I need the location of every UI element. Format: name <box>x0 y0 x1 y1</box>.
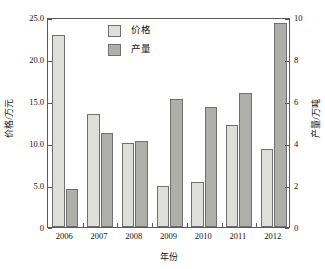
x-tick-mark <box>117 223 118 227</box>
bar-price <box>122 143 135 227</box>
y-tick-mark-right <box>285 187 289 188</box>
y-tick-mark-left <box>48 228 52 229</box>
bar-output <box>135 141 148 227</box>
y-axis-ticks-right: 0246810 <box>294 0 320 269</box>
y-tick-label-right: 8 <box>294 56 318 65</box>
y-tick-mark-right <box>285 61 289 62</box>
bar-price <box>226 125 239 227</box>
bar-price <box>191 182 204 227</box>
x-tick-label: 2012 <box>253 231 293 241</box>
legend: 价格 产量 <box>108 21 204 59</box>
bar-output <box>101 133 114 228</box>
x-tick-mark <box>187 223 188 227</box>
y-tick-label-right: 2 <box>294 182 318 191</box>
bar-output <box>205 107 218 227</box>
y-tick-label-right: 4 <box>294 140 318 149</box>
y-tick-mark-left <box>48 61 52 62</box>
legend-swatch-output-icon <box>108 44 121 56</box>
x-tick-mark <box>256 223 257 227</box>
bar-output <box>66 189 79 227</box>
y-tick-label-right: 6 <box>294 98 318 107</box>
y-tick-label-right: 0 <box>294 224 318 233</box>
bar-chart: 价格/万元 产量/万吨 年份 05.010.015.020.025.0 0246… <box>0 0 325 269</box>
legend-label-price: 价格 <box>131 26 151 36</box>
y-tick-label-left: 5.0 <box>4 182 44 191</box>
y-tick-label-left: 10.0 <box>4 140 44 149</box>
bar-output <box>170 99 183 227</box>
legend-label-output: 产量 <box>131 45 151 55</box>
y-tick-mark-left <box>48 103 52 104</box>
legend-item-output: 产量 <box>108 40 204 59</box>
x-tick-mark <box>152 223 153 227</box>
bar-output <box>274 23 287 227</box>
bar-price <box>261 149 274 227</box>
y-tick-label-left: 15.0 <box>4 98 44 107</box>
y-tick-mark-right <box>285 145 289 146</box>
y-tick-mark-left <box>48 187 52 188</box>
bar-output <box>239 93 252 227</box>
y-tick-label-left: 25.0 <box>4 14 44 23</box>
x-axis-label: 年份 <box>47 250 290 263</box>
y-tick-mark-right <box>285 228 289 229</box>
legend-swatch-price-icon <box>108 25 121 37</box>
x-axis-tick-labels: 2006200720082009201020112012 <box>47 231 290 245</box>
legend-item-price: 价格 <box>108 21 204 40</box>
bar-price <box>52 35 65 227</box>
bar-price <box>157 186 170 227</box>
x-tick-mark <box>83 223 84 227</box>
x-tick-mark <box>222 223 223 227</box>
y-tick-mark-right <box>285 19 289 20</box>
y-tick-label-left: 20.0 <box>4 56 44 65</box>
y-tick-mark-right <box>285 103 289 104</box>
y-axis-ticks-left: 05.010.015.020.025.0 <box>0 0 44 269</box>
y-tick-label-left: 0 <box>4 224 44 233</box>
y-tick-mark-left <box>48 145 52 146</box>
y-tick-mark-left <box>48 19 52 20</box>
bar-price <box>87 114 100 227</box>
y-tick-label-right: 10 <box>294 14 318 23</box>
